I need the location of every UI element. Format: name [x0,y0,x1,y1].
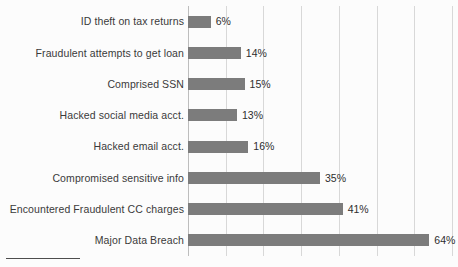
bar-value-label: 14% [246,48,267,59]
bottom-rule [6,258,80,259]
bar-chart: ID theft on tax returns6%Fraudulent atte… [0,0,458,267]
category-label: Encountered Fraudulent CC charges [0,204,184,215]
bar-container: 14% [188,37,458,68]
bar [188,16,211,28]
bar-row: Fraudulent attempts to get loan14% [0,37,458,68]
bar-container: 15% [188,69,458,100]
bar [188,234,429,246]
bar-value-label: 16% [253,141,274,152]
category-label: Major Data Breach [0,235,184,246]
bar [188,47,241,59]
category-label: Fraudulent attempts to get loan [0,48,184,59]
bar-value-label: 13% [242,110,263,121]
bar-container: 16% [188,131,458,162]
bar [188,78,245,90]
bar-rows: ID theft on tax returns6%Fraudulent atte… [0,6,458,256]
bar [188,203,343,215]
bar-container: 6% [188,6,458,37]
category-label: Hacked email acct. [0,141,184,152]
bar-row: Hacked email acct.16% [0,131,458,162]
bar-value-label: 64% [434,235,455,246]
bar-container: 41% [188,194,458,225]
bar [188,109,237,121]
bar-row: Encountered Fraudulent CC charges41% [0,194,458,225]
bar-row: Comprised SSN15% [0,69,458,100]
category-label: Comprised SSN [0,79,184,90]
bar-row: ID theft on tax returns6% [0,6,458,37]
category-label: Compromised sensitive info [0,173,184,184]
bar-container: 13% [188,100,458,131]
bar-container: 64% [188,225,458,256]
bar-value-label: 41% [348,204,369,215]
category-label: ID theft on tax returns [0,16,184,27]
bar-row: Major Data Breach64% [0,225,458,256]
bar-value-label: 15% [250,79,271,90]
bar-value-label: 35% [325,173,346,184]
category-label: Hacked social media acct. [0,110,184,121]
bar-row: Compromised sensitive info35% [0,162,458,193]
bar [188,141,248,153]
bar-row: Hacked social media acct.13% [0,100,458,131]
bar-container: 35% [188,162,458,193]
bar-value-label: 6% [216,16,231,27]
bar [188,172,320,184]
